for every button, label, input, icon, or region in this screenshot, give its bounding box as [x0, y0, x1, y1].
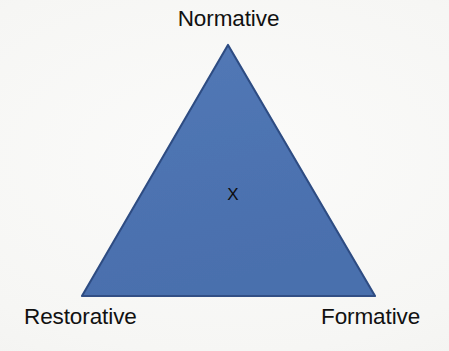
- vertex-label-formative: Formative: [321, 306, 420, 329]
- triangle-polygon: [82, 45, 375, 296]
- vertex-label-restorative: Restorative: [24, 306, 137, 329]
- vertex-label-normative: Normative: [0, 8, 449, 31]
- triangle-diagram: Normative Restorative Formative X: [0, 0, 449, 351]
- position-marker-x: X: [225, 186, 241, 204]
- diagram-canvas: Normative Restorative Formative X: [0, 0, 449, 351]
- triangle-shape: [0, 0, 449, 351]
